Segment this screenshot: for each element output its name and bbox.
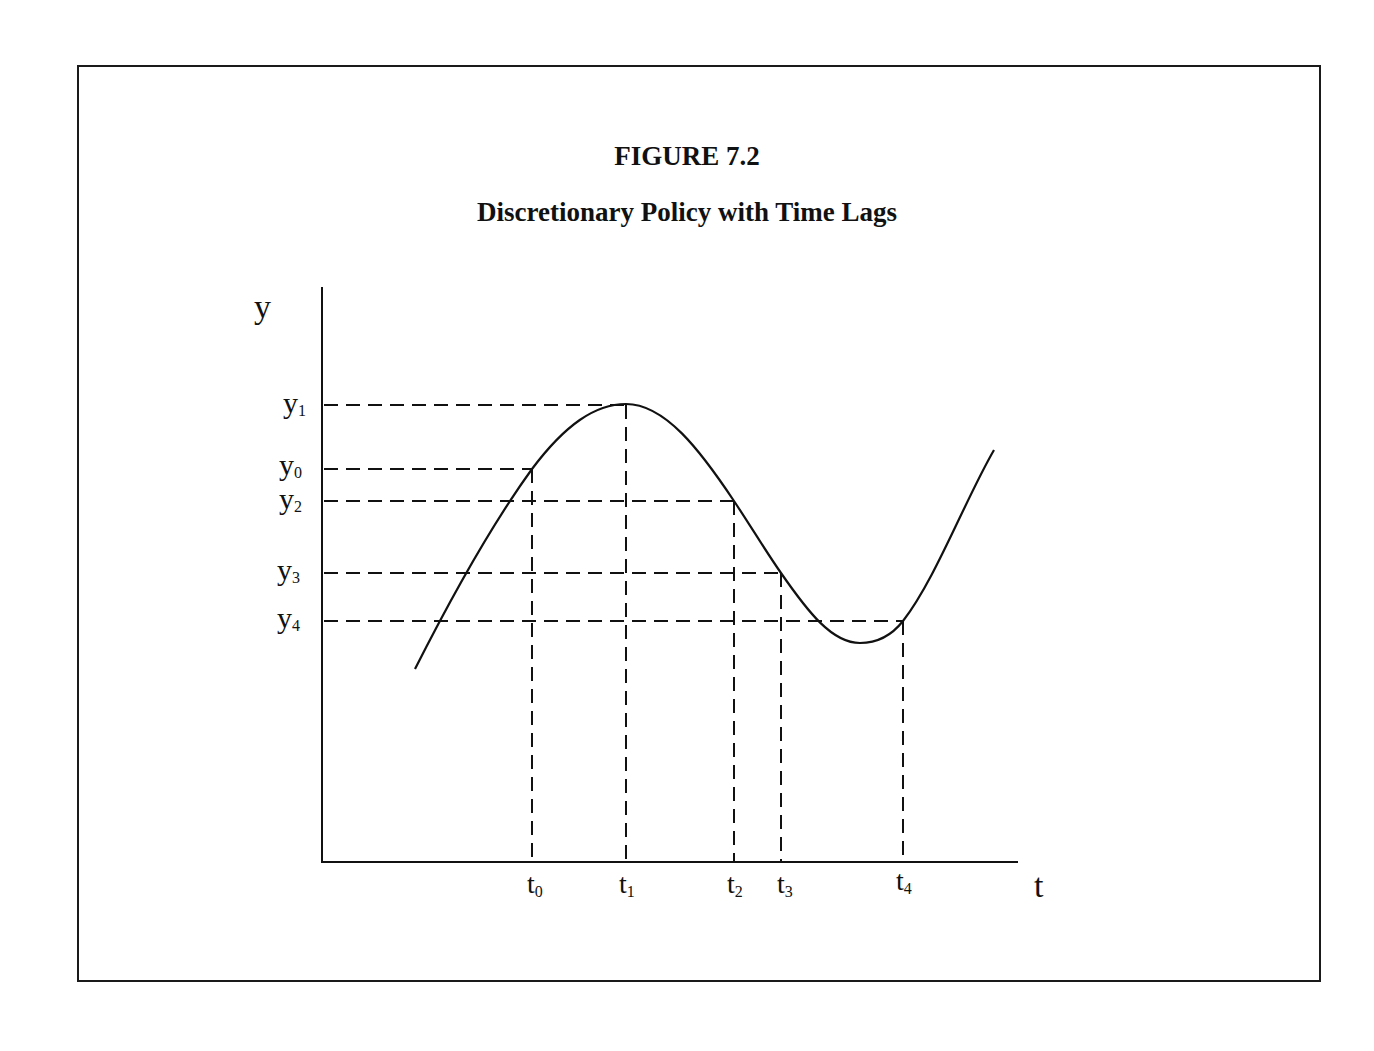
label-y1: y1 <box>283 386 306 419</box>
output-cycle-curve <box>415 404 994 669</box>
label-t2: t2 <box>727 868 743 900</box>
label-t1: t1 <box>619 868 635 900</box>
diagram-plot: y t y1 y0 y2 y3 y4 <box>0 0 1374 1051</box>
label-y3: y3 <box>277 553 300 586</box>
label-t0: t0 <box>527 868 543 900</box>
y-level-labels: y1 y0 y2 y3 y4 <box>277 386 306 634</box>
label-y0: y0 <box>279 448 302 481</box>
x-axis-label: t <box>1034 867 1044 904</box>
label-y4: y4 <box>277 601 300 634</box>
vertical-guides <box>532 405 903 861</box>
label-y2: y2 <box>279 482 302 515</box>
label-t3: t3 <box>777 868 793 900</box>
y-axis-label: y <box>254 288 271 325</box>
horizontal-guides <box>324 405 903 621</box>
label-t4: t4 <box>896 865 912 897</box>
t-point-labels: t0 t1 t2 t3 t4 <box>527 865 912 900</box>
